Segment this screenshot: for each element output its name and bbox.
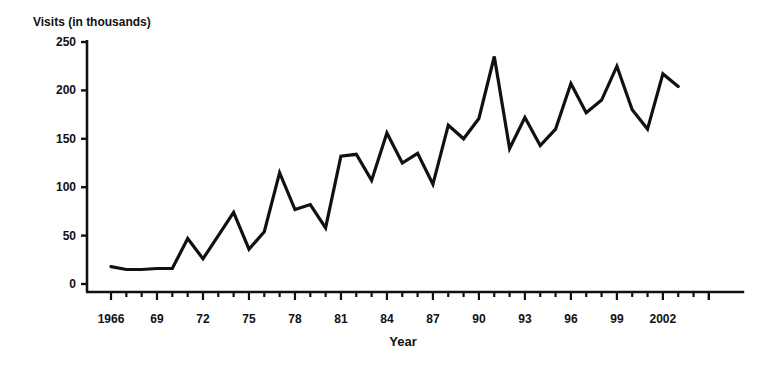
y-axis-title: Visits (in thousands) [33,15,151,29]
x-tick-label: 75 [242,312,256,326]
y-axis: 050100150200250 [56,35,87,292]
x-axis-title: Year [389,334,416,349]
x-tick-label: 99 [610,312,624,326]
x-tick-label: 69 [150,312,164,326]
y-tick-label: 200 [56,83,76,97]
y-tick-label: 50 [63,229,77,243]
x-tick-label: 96 [564,312,578,326]
visits-line [111,57,678,270]
x-tick-label: 87 [426,312,440,326]
y-tick-label: 0 [69,277,76,291]
x-tick-label: 84 [380,312,394,326]
y-tick-label: 150 [56,132,76,146]
x-tick-label: 93 [518,312,532,326]
x-tick-label: 90 [472,312,486,326]
x-tick-label: 78 [288,312,302,326]
y-tick-label: 250 [56,35,76,49]
x-tick-label: 81 [334,312,348,326]
x-axis: 196669727578818487909396992002 [86,292,744,326]
y-tick-label: 100 [56,180,76,194]
x-tick-label: 2002 [650,312,677,326]
x-tick-label: 72 [196,312,210,326]
x-tick-label: 1966 [98,312,125,326]
line-chart: Visits (in thousands) 050100150200250 19… [0,0,765,365]
